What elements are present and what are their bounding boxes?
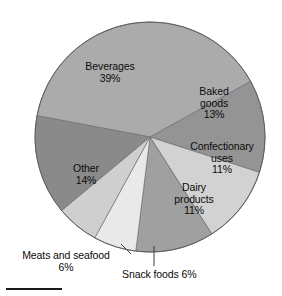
- pie-chart: Beverages 39% Baked goods 13% Confection…: [0, 0, 282, 296]
- pie-slices: [35, 22, 265, 252]
- callout-label-snack-foods: Snack foods 6%: [122, 268, 240, 280]
- callout-label-meats-seafood: Meats and seafood 6%: [4, 249, 128, 273]
- bottom-rule: [6, 288, 62, 290]
